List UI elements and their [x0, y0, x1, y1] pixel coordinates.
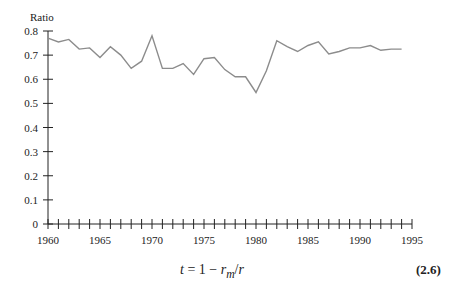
equation-op: = 1 −	[184, 262, 221, 277]
y-tick-label: 0.8	[24, 25, 38, 37]
y-tick-label: 0.7	[24, 49, 38, 61]
x-tick-label: 1965	[89, 234, 112, 246]
equation: t = 1 − rm/r	[180, 262, 244, 281]
y-tick-label: 0	[33, 218, 39, 230]
x-tick-label: 1995	[401, 234, 424, 246]
equation-sub: m	[226, 268, 234, 281]
y-tick-label: 0.3	[24, 146, 38, 158]
equation-r2: r	[238, 262, 243, 277]
x-tick-label: 1985	[297, 234, 320, 246]
y-tick-label: 0.1	[24, 194, 38, 206]
y-axis-label: Ratio	[30, 11, 54, 23]
y-tick-label: 0.2	[24, 170, 38, 182]
x-axis: 19601965197019751980198519901995	[37, 219, 424, 246]
y-tick-label: 0.6	[24, 73, 38, 85]
x-tick-label: 1960	[37, 234, 60, 246]
x-tick-label: 1975	[193, 234, 216, 246]
ratio-line	[48, 36, 402, 93]
x-tick-label: 1970	[141, 234, 164, 246]
y-tick-label: 0.5	[24, 97, 38, 109]
y-axis: 00.10.20.30.40.50.60.70.8	[24, 25, 53, 230]
y-tick-label: 0.4	[24, 122, 38, 134]
line-chart: Ratio 00.10.20.30.40.50.60.70.8 19601965…	[0, 0, 455, 288]
x-tick-label: 1980	[245, 234, 268, 246]
x-tick-label: 1990	[349, 234, 372, 246]
equation-number: (2.6)	[416, 262, 441, 278]
